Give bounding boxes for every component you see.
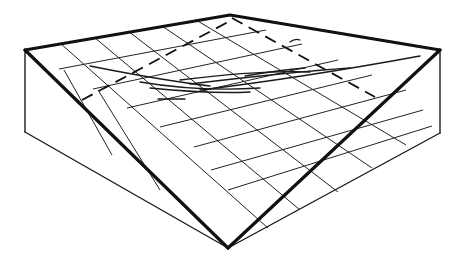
- box-top-edges: [25, 15, 440, 248]
- wireframe-box-diagram: [0, 0, 463, 277]
- tilted-grid-plane: [59, 20, 432, 228]
